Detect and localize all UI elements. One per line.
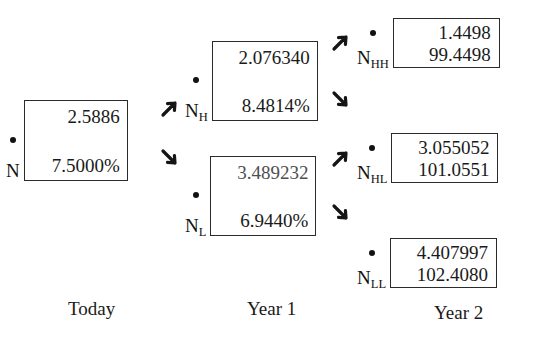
node-dot-NHH [370, 30, 376, 36]
node-NL-value-top: 3.489232 [237, 163, 308, 182]
node-NL-gutter: NL [185, 192, 206, 236]
node-dot-NH [193, 77, 199, 83]
arrow-NL-to-NLL [331, 203, 351, 223]
node-NH-value-bottom: 8.4814% [242, 96, 310, 115]
arrow-N-to-NL [160, 148, 180, 168]
node-NHL: NHL 3.055052 101.0551 [357, 133, 498, 183]
node-NH-gutter: NH [185, 77, 208, 121]
node-NL-value-bottom: 6.9440% [240, 211, 308, 230]
node-NHL-value-top: 3.055052 [418, 138, 489, 157]
timeline-label-today: Today [68, 299, 115, 318]
node-label-NLL: NLL [357, 268, 386, 287]
node-box-NHH: 1.4498 99.4498 [393, 18, 500, 68]
timeline-label-year1: Year 1 [247, 299, 296, 318]
node-NHH-value-top: 1.4498 [439, 23, 491, 42]
node-label-NHH: NHH [357, 48, 389, 67]
node-dot-N [10, 137, 16, 143]
node-NLL: NLL 4.407997 102.4080 [357, 238, 497, 288]
node-box-NH: 2.076340 8.4814% [212, 41, 318, 121]
node-box-NHL: 3.055052 101.0551 [391, 133, 498, 183]
node-label-N: N [6, 161, 20, 180]
node-NLL-value-bottom: 102.4080 [417, 265, 488, 284]
node-NHH-value-bottom: 99.4498 [429, 45, 491, 64]
timeline-label-year2: Year 2 [434, 303, 483, 322]
node-NL: NL 3.489232 6.9440% [185, 156, 316, 236]
node-N-gutter: N [6, 137, 20, 181]
node-NHH: NHH 1.4498 99.4498 [357, 18, 500, 68]
node-NHL-value-bottom: 101.0551 [418, 160, 489, 179]
node-dot-NLL [369, 250, 375, 256]
node-NH: NH 2.076340 8.4814% [185, 41, 318, 121]
binomial-tree-diagram: N 2.5886 7.5000% NH 2.076340 8.4814% [0, 0, 552, 337]
node-dot-NHL [369, 145, 375, 151]
node-dot-NL [193, 192, 199, 198]
node-N: N 2.5886 7.5000% [6, 100, 128, 181]
node-label-NL: NL [185, 216, 206, 235]
node-N-value-top: 2.5886 [67, 107, 119, 126]
node-N-value-bottom: 7.5000% [52, 156, 120, 175]
arrow-NH-to-NHL [331, 90, 351, 110]
node-box-NLL: 4.407997 102.4080 [390, 238, 497, 288]
node-NLL-gutter: NLL [357, 250, 386, 288]
arrow-NL-to-NHL [331, 148, 351, 168]
arrow-NH-to-NHH [331, 32, 351, 52]
node-NH-value-top: 2.076340 [239, 48, 310, 67]
node-NLL-value-top: 4.407997 [417, 243, 488, 262]
node-label-NHL: NHL [357, 163, 387, 182]
node-box-N: 2.5886 7.5000% [24, 100, 128, 181]
node-label-NH: NH [185, 101, 208, 120]
node-NHH-gutter: NHH [357, 30, 389, 68]
node-NHL-gutter: NHL [357, 145, 387, 183]
arrow-N-to-NH [160, 98, 180, 118]
node-box-NL: 3.489232 6.9440% [210, 156, 316, 236]
